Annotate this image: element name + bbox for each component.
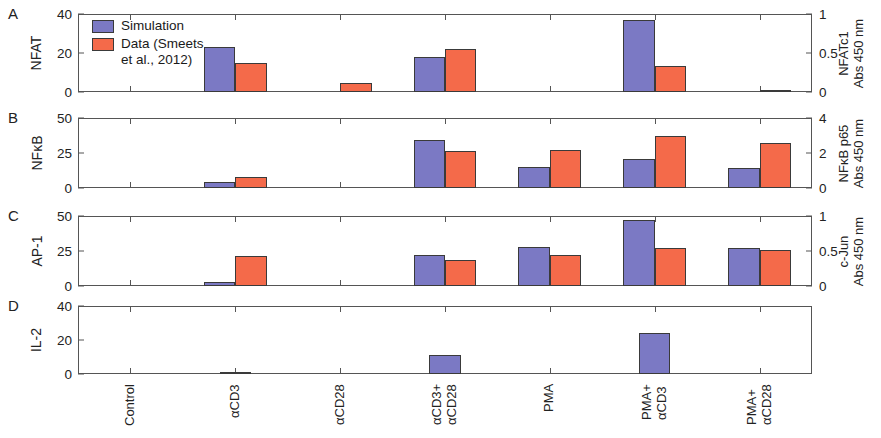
x-tick-mark-top: [445, 118, 446, 124]
y-tick-label-right: 0: [819, 85, 827, 100]
y-tick-mark: [78, 92, 84, 93]
y-axis-label-right-c: c-JunAbs 450 nm: [837, 216, 866, 285]
bar-simulation: [623, 220, 654, 286]
legend-item-data: Data (Smeets et al., 2012): [92, 36, 204, 68]
bar-data: [655, 66, 686, 92]
x-category-label-4: PMA: [542, 384, 557, 412]
x-tick-mark-top: [655, 14, 656, 20]
bar-simulation: [728, 248, 759, 286]
y-tick-mark: [78, 118, 84, 119]
x-tick-mark-top: [550, 14, 551, 20]
y-tick-label-right: 0.5: [819, 46, 838, 61]
y-tick-mark: [78, 251, 84, 252]
legend-swatch-simulation: [92, 20, 114, 33]
legend-label-data: Data (Smeets et al., 2012): [121, 36, 204, 68]
legend-item-simulation: Simulation: [92, 18, 204, 34]
y-axis-label-c: AP-1: [28, 235, 44, 266]
y-tick-label: 20: [57, 333, 72, 348]
bar-data: [550, 255, 581, 287]
y-tick-label-right: 0: [819, 279, 827, 294]
bar-simulation: [204, 47, 235, 92]
x-tick-mark: [550, 368, 551, 374]
y-tick-label: 50: [57, 209, 72, 224]
panel-c: 0255000.51: [78, 216, 812, 286]
y-tick-mark-right: [806, 251, 812, 252]
y-tick-mark-right: [806, 92, 812, 93]
x-tick-mark-top: [760, 216, 761, 222]
x-tick-mark-top: [760, 306, 761, 312]
legend: SimulationData (Smeets et al., 2012): [92, 18, 204, 70]
bar-simulation: [414, 255, 445, 286]
y-tick-label: 50: [57, 111, 72, 126]
bar-simulation: [518, 167, 549, 188]
x-tick-mark-top: [445, 306, 446, 312]
x-tick-mark-top: [550, 306, 551, 312]
bar-data: [445, 260, 476, 286]
x-category-label-6: PMA+αCD28: [745, 384, 775, 425]
bar-data: [760, 250, 791, 286]
y-axis-label-d: IL-2: [28, 328, 44, 352]
y-tick-mark: [78, 153, 84, 154]
x-tick-mark-top: [340, 306, 341, 312]
y-tick-mark: [78, 188, 84, 189]
x-category-label-5: PMA+αCD3: [640, 384, 670, 420]
panel-d: 02040: [78, 306, 812, 374]
bar-data: [235, 63, 266, 92]
x-tick-mark-top: [235, 216, 236, 222]
bar-data: [235, 256, 266, 286]
bar-simulation: [623, 20, 654, 92]
x-tick-mark-top: [655, 306, 656, 312]
x-tick-mark-top: [235, 14, 236, 20]
bar-data: [655, 248, 686, 287]
y-tick-mark-right: [806, 53, 812, 54]
y-tick-mark-right: [806, 286, 812, 287]
y-tick-mark: [78, 306, 84, 307]
y-tick-label: 20: [57, 46, 72, 61]
y-tick-mark: [78, 286, 84, 287]
bar-data: [655, 136, 686, 188]
x-category-label-0: Control: [123, 384, 138, 426]
y-tick-label-right: 0: [819, 181, 827, 196]
y-axis-label-a: NFAT: [28, 36, 44, 71]
bar-data: [235, 177, 266, 188]
x-tick-mark-top: [550, 216, 551, 222]
y-tick-label: 40: [57, 299, 72, 314]
x-tick-mark: [340, 182, 341, 188]
y-tick-mark-right: [806, 14, 812, 15]
bar-simulation: [429, 355, 460, 374]
x-tick-mark: [130, 280, 131, 286]
figure-root: ABCD0204000.51NFATNFATc1Abs 450 nm025500…: [0, 0, 881, 438]
y-tick-mark: [78, 216, 84, 217]
y-tick-mark: [78, 53, 84, 54]
x-tick-mark-top: [235, 118, 236, 124]
y-tick-label-right: 1: [819, 7, 827, 22]
x-tick-mark: [130, 182, 131, 188]
y-tick-label: 0: [64, 85, 72, 100]
x-tick-mark-top: [760, 14, 761, 20]
x-category-label-3: αCD3+αCD28: [430, 384, 460, 425]
panel-letter-d: D: [8, 298, 19, 313]
x-tick-mark-top: [760, 118, 761, 124]
x-tick-mark-top: [445, 216, 446, 222]
x-category-label-2: αCD28: [333, 384, 348, 425]
y-axis-label-right-a: NFATc1Abs 450 nm: [837, 18, 866, 87]
bar-simulation: [204, 182, 235, 188]
bar-simulation: [518, 247, 549, 286]
x-category-label-1: αCD3: [228, 384, 243, 418]
x-tick-mark-top: [655, 118, 656, 124]
panel-b: 02550024: [78, 118, 812, 188]
y-tick-label-right: 0.5: [819, 244, 838, 259]
panel-letter-b: B: [8, 110, 18, 125]
x-tick-mark-top: [550, 118, 551, 124]
y-tick-mark: [78, 14, 84, 15]
x-tick-mark-top: [655, 216, 656, 222]
x-tick-mark-top: [445, 14, 446, 20]
bar-data: [445, 49, 476, 92]
x-tick-mark: [340, 280, 341, 286]
y-axis-label-b: NFκB: [28, 136, 44, 171]
bar-data: [760, 143, 791, 189]
x-tick-mark: [340, 368, 341, 374]
bar-simulation: [220, 372, 251, 374]
bar-simulation: [639, 333, 670, 374]
y-tick-label: 0: [64, 279, 72, 294]
